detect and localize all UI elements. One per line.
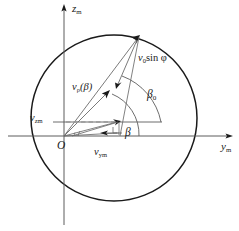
v-rho-beta-suffix: (β): [80, 81, 92, 92]
v-zm-label: vzm: [30, 113, 43, 124]
main-circle: [31, 35, 197, 201]
v0-sin-phi-base: v: [138, 52, 143, 63]
v0-sin-phi-sub: 0: [143, 57, 146, 64]
y-axis-label-sub: m: [226, 146, 231, 153]
origin-label-text: O: [57, 139, 65, 151]
figure-container: zm ym O v0sin φ vρ(β) β0 β vzm vym: [0, 0, 239, 231]
beta-label: β: [125, 127, 131, 139]
z-axis-label: zm: [72, 3, 82, 14]
v-ym-sub: ym: [99, 151, 107, 158]
v-ym-label: vym: [94, 147, 107, 158]
beta-label-text: β: [125, 126, 131, 138]
origin-label: O: [57, 140, 65, 152]
v-rho-beta-base: v: [72, 81, 77, 92]
right-angle-marker: [113, 127, 119, 133]
vertical-chord-line: [120, 37, 139, 136]
v-rho-beta-sub: ρ: [77, 86, 80, 93]
z-axis-label-sub: m: [76, 8, 81, 15]
beta-zero-sub: 0: [153, 94, 157, 102]
beta-zero-label: β0: [147, 89, 156, 101]
v0-sin-phi-suffix: sin φ: [146, 52, 167, 63]
v-rho-beta-label: vρ(β): [72, 82, 92, 93]
origin-to-component-line: [64, 122, 117, 136]
v-zm-base: v: [30, 112, 35, 123]
v0-sin-phi-label: v0sin φ: [138, 53, 167, 64]
v-ym-base: v: [94, 146, 99, 157]
v-zm-sub: zm: [35, 117, 43, 124]
beta-zero-base: β: [147, 88, 153, 100]
y-axis-label: ym: [221, 141, 231, 152]
v-rho-beta-vector-line: [64, 94, 106, 136]
